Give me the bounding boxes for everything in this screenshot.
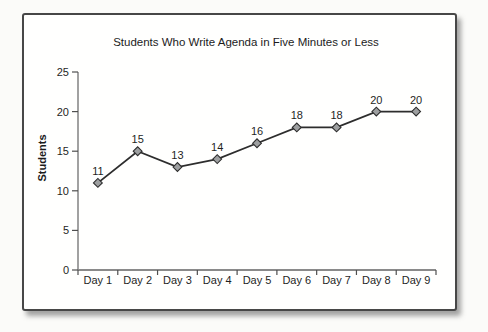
data-point-label: 14 [211, 141, 223, 153]
plot-area: 0510152025Day 1Day 2Day 3Day 4Day 5Day 6… [57, 66, 436, 286]
data-point-label: 20 [410, 94, 422, 106]
x-axis-category-label: Day 2 [123, 274, 152, 286]
data-point-label: 18 [291, 109, 303, 121]
x-axis-category-label: Day 1 [84, 274, 113, 286]
data-point-marker [173, 163, 182, 172]
y-axis-tick-label: 20 [57, 106, 69, 118]
y-axis-title: Students [36, 134, 48, 181]
x-axis-category-label: Day 3 [163, 274, 192, 286]
line-chart: Students Who Write Agenda in Five Minute… [24, 15, 455, 309]
x-axis-category-label: Day 6 [282, 274, 311, 286]
data-point-marker [372, 107, 381, 116]
y-axis-tick-label: 15 [57, 145, 69, 157]
data-point-marker [412, 107, 421, 116]
y-axis-tick-label: 25 [57, 66, 69, 78]
chart-title: Students Who Write Agenda in Five Minute… [113, 36, 379, 48]
data-point-label: 16 [251, 125, 263, 137]
data-point-label: 11 [92, 165, 103, 177]
y-axis-tick-label: 10 [57, 185, 69, 197]
x-axis-category-label: Day 9 [402, 274, 431, 286]
page-background: Students Who Write Agenda in Five Minute… [0, 0, 488, 332]
data-point-label: 13 [171, 149, 183, 161]
y-axis-tick-label: 0 [63, 264, 69, 276]
chart-card: Students Who Write Agenda in Five Minute… [22, 13, 457, 311]
x-axis-category-label: Day 8 [362, 274, 391, 286]
data-point-marker [332, 123, 341, 132]
x-axis-category-label: Day 5 [243, 274, 272, 286]
data-point-label: 20 [370, 94, 382, 106]
data-point-marker [213, 155, 222, 164]
data-point-marker [292, 123, 301, 132]
y-axis-tick-label: 5 [63, 224, 69, 236]
data-point-label: 15 [132, 133, 144, 145]
x-axis-category-label: Day 4 [203, 274, 232, 286]
x-axis-category-label: Day 7 [322, 274, 351, 286]
data-point-marker [253, 139, 262, 148]
data-point-label: 18 [330, 109, 342, 121]
